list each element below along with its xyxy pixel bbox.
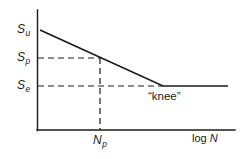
y-label-se: Se: [17, 79, 30, 91]
y-label-sp-subscript: p: [26, 56, 31, 66]
y-label-sp: Sp: [17, 51, 30, 63]
y-label-su-subscript: u: [26, 28, 31, 38]
y-label-se-subscript: e: [26, 84, 31, 94]
x-axis-title-symbol: N: [210, 132, 218, 144]
x-axis-title-prefix: log: [192, 132, 210, 144]
x-axis-title: log N: [192, 133, 218, 144]
x-label-np-subscript: p: [102, 139, 107, 149]
sn-fatigue-curve-figure: Su Sp Se Np log N “knee”: [0, 0, 245, 159]
knee-annotation: “knee”: [148, 91, 181, 103]
x-label-np: Np: [93, 134, 106, 146]
y-label-su: Su: [17, 23, 30, 35]
